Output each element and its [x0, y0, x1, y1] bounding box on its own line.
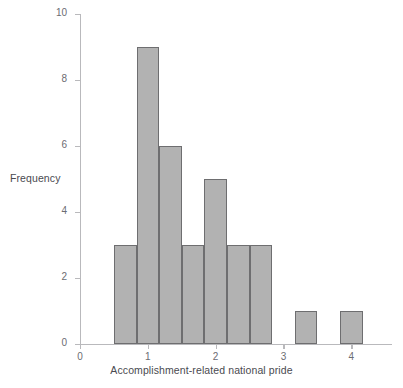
histogram-bar	[159, 146, 182, 344]
x-axis-tick-label: 3	[281, 351, 287, 362]
x-axis-tick-label: 4	[349, 351, 355, 362]
histogram-bar	[114, 245, 137, 344]
histogram-bar	[227, 245, 250, 344]
histogram-bar	[295, 311, 318, 344]
histogram-bar	[137, 47, 160, 344]
histogram-bar	[340, 311, 363, 344]
y-axis-tick-label: 10	[56, 7, 67, 18]
y-axis-tick: 10	[75, 14, 80, 15]
x-axis-label: Accomplishment-related national pride	[0, 364, 403, 376]
x-axis-tick: 1	[148, 344, 149, 349]
y-axis-tick-label: 6	[61, 139, 67, 150]
y-axis-tick: 4	[75, 212, 80, 213]
x-axis-tick: 0	[80, 344, 81, 349]
histogram-bar	[250, 245, 273, 344]
y-axis-tick-label: 0	[61, 337, 67, 348]
y-axis-label: Frequency	[10, 172, 61, 184]
x-axis-line	[80, 344, 392, 345]
histogram-figure: Frequency 024681001234 Accomplishment-re…	[0, 0, 403, 388]
plot-area: 024681001234	[80, 14, 392, 344]
y-axis-tick: 2	[75, 278, 80, 279]
y-axis-tick-label: 2	[61, 271, 67, 282]
y-axis-tick: 8	[75, 80, 80, 81]
x-axis-tick-label: 2	[213, 351, 219, 362]
x-axis-tick: 2	[216, 344, 217, 349]
y-axis-tick: 6	[75, 146, 80, 147]
histogram-bar	[182, 245, 205, 344]
y-axis-tick-label: 4	[61, 205, 67, 216]
histogram-bar	[204, 179, 227, 344]
x-axis-tick: 4	[351, 344, 352, 349]
x-axis-tick-label: 0	[77, 351, 83, 362]
y-axis-tick-label: 8	[61, 73, 67, 84]
x-axis-tick-label: 1	[145, 351, 151, 362]
x-axis-tick: 3	[283, 344, 284, 349]
